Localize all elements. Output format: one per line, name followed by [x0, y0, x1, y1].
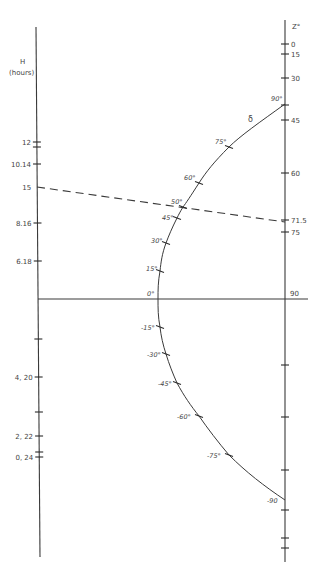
right-tick-label: 15: [291, 51, 300, 59]
left-tick-label: 12: [22, 139, 31, 147]
right-tick-label: 71.5: [291, 217, 307, 225]
curve-tick-label: -75°: [207, 452, 221, 460]
curve-tick-label: 50°: [171, 198, 183, 206]
curve-tick-label: -45°: [158, 380, 172, 388]
nomogram: H (hours) Z° 90 δ 1210.14158.166.184, 20…: [0, 0, 322, 575]
horizontal-axis-label: 90: [290, 290, 299, 298]
curve-tick-label: -90: [267, 497, 278, 505]
right-tick-label: 45: [291, 117, 300, 125]
left-axis-subtitle: (hours): [9, 69, 34, 77]
right-axis-title: Z°: [292, 23, 300, 31]
left-tick-label: 15: [22, 184, 31, 192]
right-tick-label: 60: [291, 170, 300, 178]
left-tick-label: 10.14: [11, 161, 32, 169]
dashed-solution-line: [37, 187, 285, 222]
curve-tick: [195, 182, 203, 185]
curve-tick-label: 60°: [184, 174, 196, 182]
right-tick-label: 30: [291, 75, 300, 83]
left-tick-label: 0, 24: [15, 454, 33, 462]
curve-tick: [195, 415, 203, 418]
left-tick-label: 6.18: [16, 258, 32, 266]
left-axis-title: H: [20, 58, 25, 66]
curve-tick-label: 30°: [151, 237, 163, 245]
curve-tick: [225, 454, 233, 457]
curve-tick-label: 75°: [215, 138, 227, 146]
right-tick-label: 75: [291, 229, 300, 237]
left-tick-label: 2, 22: [15, 433, 33, 441]
left-tick-label: 4, 20: [15, 374, 33, 382]
curve-tick-label: -30°: [147, 351, 161, 359]
curve-tick-label: -60°: [177, 413, 191, 421]
curve-tick-label: 15°: [146, 265, 158, 273]
curve-tick-label: 45°: [162, 214, 174, 222]
curve-tick-label: 90°: [271, 95, 283, 103]
curve-tick-label: 0°: [147, 290, 154, 298]
right-tick-label: 0: [291, 41, 295, 49]
curve-ticks: 90°75°60°50°45°30°15°0°-15°-30°-45°-60°-…: [141, 95, 283, 505]
declination-curve: [158, 104, 285, 500]
left-axis-h: [36, 27, 40, 557]
delta-symbol: δ: [248, 115, 253, 124]
curve-tick-label: -15°: [141, 324, 155, 332]
left-tick-label: 8.16: [16, 220, 32, 228]
